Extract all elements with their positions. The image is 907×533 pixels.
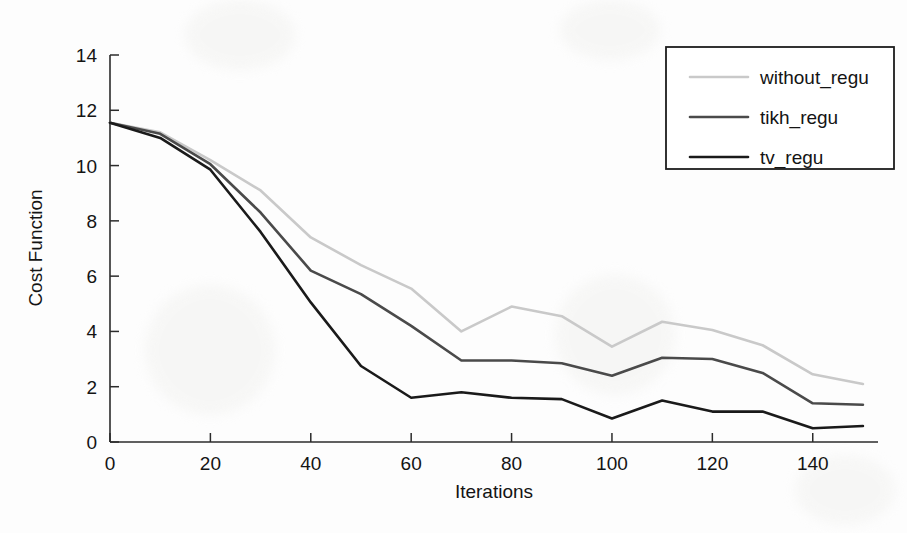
x-tick-label: 60 (401, 453, 422, 474)
y-axis-title: Cost Function (25, 189, 46, 306)
y-tick-label: 8 (86, 211, 97, 232)
y-axis-ticks (110, 55, 119, 442)
y-tick-label: 0 (86, 432, 97, 453)
x-tick-label: 80 (501, 453, 522, 474)
x-tick-label: 20 (200, 453, 221, 474)
x-axis-ticks (110, 433, 813, 442)
legend-label-tikh-regu: tikh_regu (760, 107, 838, 129)
y-tick-label: 6 (86, 266, 97, 287)
y-tick-label: 2 (86, 377, 97, 398)
y-tick-label: 4 (86, 321, 97, 342)
legend-label-without-regu: without_regu (759, 67, 869, 89)
cost-function-line-chart: 02468101214 020406080100120140 Cost Func… (0, 0, 907, 533)
y-axis-tick-labels: 02468101214 (76, 45, 98, 453)
y-tick-label: 14 (76, 45, 98, 66)
y-tick-label: 10 (76, 156, 97, 177)
legend-label-tv-regu: tv_regu (760, 147, 823, 169)
x-tick-label: 120 (697, 453, 729, 474)
x-tick-label: 100 (596, 453, 628, 474)
x-tick-label: 140 (797, 453, 829, 474)
x-axis-title: Iterations (455, 481, 533, 502)
chart-svg: 02468101214 020406080100120140 Cost Func… (0, 0, 907, 533)
y-tick-label: 12 (76, 100, 97, 121)
x-tick-label: 40 (300, 453, 321, 474)
x-axis-tick-labels: 020406080100120140 (105, 453, 829, 474)
x-tick-label: 0 (105, 453, 116, 474)
legend: without_regutikh_regutv_regu (666, 47, 894, 169)
